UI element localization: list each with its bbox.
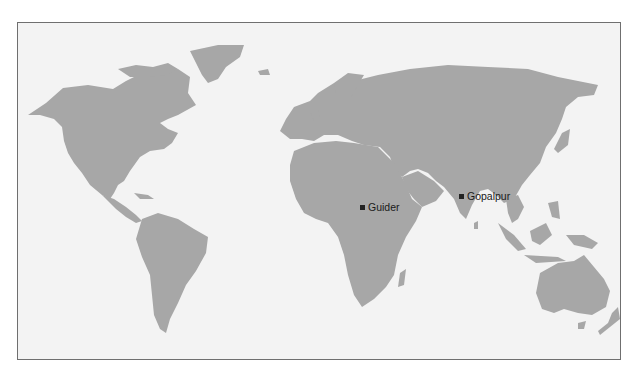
marker-square-icon	[459, 194, 464, 199]
map-frame: Guider Gopalpur	[17, 22, 621, 360]
marker-square-icon	[360, 205, 365, 210]
marker-guider[interactable]: Guider	[360, 202, 400, 213]
marker-label: Gopalpur	[467, 191, 510, 202]
australia	[536, 255, 610, 315]
marker-label: Guider	[368, 202, 400, 213]
world-map	[18, 23, 620, 359]
north-america	[28, 69, 196, 199]
marker-gopalpur[interactable]: Gopalpur	[459, 191, 510, 202]
